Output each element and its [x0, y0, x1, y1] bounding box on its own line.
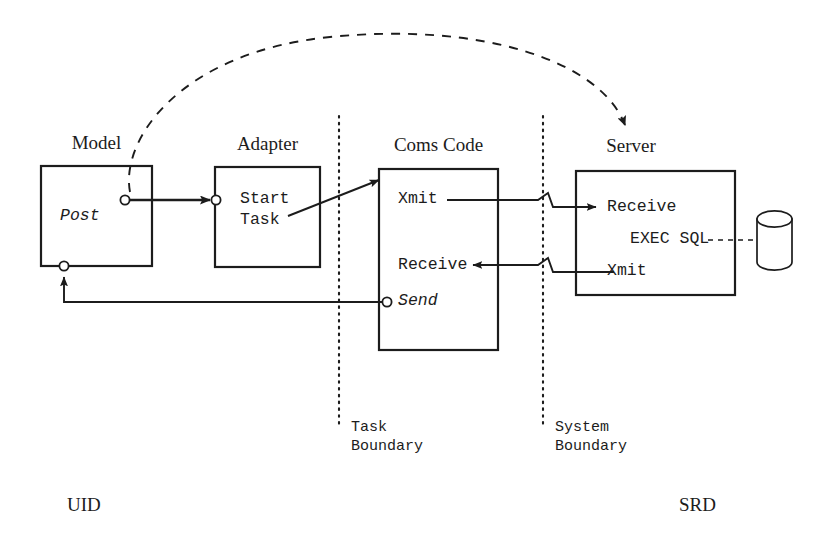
model-in-port-circle	[59, 261, 68, 270]
send-to-model-return-arrow	[64, 277, 382, 302]
adapter-in-port-circle	[211, 195, 220, 204]
uid-label: UID	[67, 494, 101, 515]
system-boundary-label-line1: System	[555, 418, 609, 437]
adapter-title: Adapter	[215, 133, 320, 154]
post-port-circle	[120, 195, 129, 204]
server-exec-sql-label: EXEC SQL	[630, 230, 709, 248]
database-cylinder-icon	[757, 211, 792, 270]
system-boundary-label-line2: Boundary	[555, 437, 627, 456]
server-receive-label: Receive	[607, 198, 676, 216]
diagram-canvas: Model Post Adapter Start Task Coms Code …	[0, 0, 829, 547]
adapter-start-label: Start	[240, 190, 290, 208]
server-xmit-label: Xmit	[607, 262, 647, 280]
task-boundary-label-line2: Boundary	[351, 437, 423, 456]
coms-code-send-label: Send	[398, 292, 438, 310]
coms-code-receive-label: Receive	[398, 256, 467, 274]
model-title: Model	[41, 132, 152, 153]
post-to-server-dashed-arc	[129, 34, 625, 192]
adapter-task-label: Task	[240, 211, 280, 229]
task-boundary-label-line1: Task	[351, 418, 387, 437]
server-title: Server	[576, 135, 686, 156]
srd-label: SRD	[679, 494, 716, 515]
coms-code-xmit-label: Xmit	[398, 190, 438, 208]
coms-code-title: Coms Code	[372, 134, 505, 155]
send-port-circle	[382, 297, 391, 306]
model-post-label: Post	[60, 207, 100, 225]
